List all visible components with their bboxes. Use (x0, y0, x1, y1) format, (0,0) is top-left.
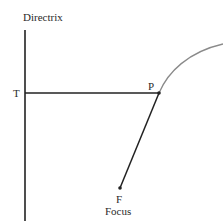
focus-label: Focus (105, 206, 131, 217)
point-p-label: P (148, 81, 154, 92)
directrix-label: Directrix (23, 12, 63, 23)
parabola-curve (159, 44, 223, 93)
point-f-label: F (116, 194, 122, 205)
point-t-label: T (13, 88, 20, 99)
diagram-canvas (0, 0, 223, 221)
point-p-dot (157, 91, 161, 95)
segment-pf (120, 93, 159, 188)
point-f-dot (118, 186, 122, 190)
